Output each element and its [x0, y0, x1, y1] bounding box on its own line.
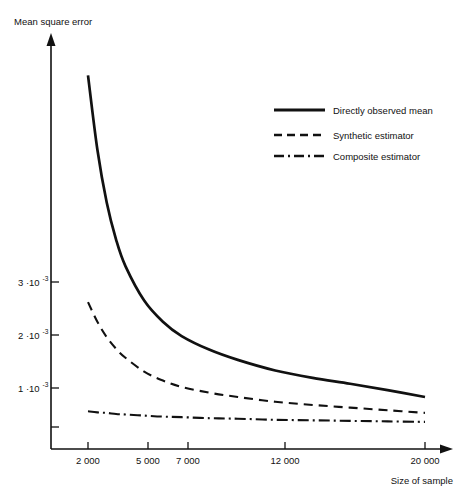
y-tick-labels: 3 ·10 -3 2 ·10 -3 1 ·10 -3	[18, 275, 49, 394]
legend-label-synthetic-estimator: Synthetic estimator	[333, 130, 414, 141]
y-tick-exponent-1e-3: -3	[43, 381, 49, 388]
y-tick-exponent-3e-3: -3	[43, 275, 49, 282]
legend-item-directly-observed-mean: Directly observed mean	[274, 105, 433, 116]
x-tick-marks	[88, 442, 425, 449]
x-tick-labels: 2 000 5 000 7 000 12 000 20 000	[76, 455, 439, 466]
chart-legend: Directly observed mean Synthetic estimat…	[274, 105, 433, 162]
legend-label-directly-observed-mean: Directly observed mean	[333, 105, 433, 116]
x-tick-label-20000: 20 000	[410, 455, 439, 466]
x-axis	[51, 445, 453, 454]
series-line-composite-estimator	[88, 411, 425, 422]
y-tick-label-1e-3: 1 ·10	[18, 383, 40, 394]
y-tick-exponent-2e-3: -3	[43, 328, 49, 335]
x-tick-label-7000: 7 000	[176, 455, 200, 466]
series-line-directly-observed-mean	[88, 75, 425, 397]
y-tick-label-3e-3: 3 ·10	[18, 277, 40, 288]
y-tick-label-2e-3: 2 ·10	[18, 330, 40, 341]
y-axis-title: Mean square error	[14, 16, 92, 27]
x-tick-label-12000: 12 000	[270, 455, 299, 466]
series-group	[88, 75, 425, 422]
x-tick-label-2000: 2 000	[76, 455, 100, 466]
legend-item-composite-estimator: Composite estimator	[274, 151, 420, 162]
y-axis-arrowhead	[47, 33, 56, 46]
x-axis-arrowhead	[440, 445, 453, 454]
legend-label-composite-estimator: Composite estimator	[333, 151, 420, 162]
x-tick-label-5000: 5 000	[136, 455, 160, 466]
legend-item-synthetic-estimator: Synthetic estimator	[274, 130, 414, 141]
series-line-synthetic-estimator	[88, 302, 425, 413]
x-axis-title: Size of sample	[391, 475, 453, 486]
chart-figure: 3 ·10 -3 2 ·10 -3 1 ·10 -3 2 000 5 000 7…	[0, 0, 470, 493]
chart-canvas: 3 ·10 -3 2 ·10 -3 1 ·10 -3 2 000 5 000 7…	[0, 0, 470, 493]
y-tick-marks	[51, 282, 59, 427]
